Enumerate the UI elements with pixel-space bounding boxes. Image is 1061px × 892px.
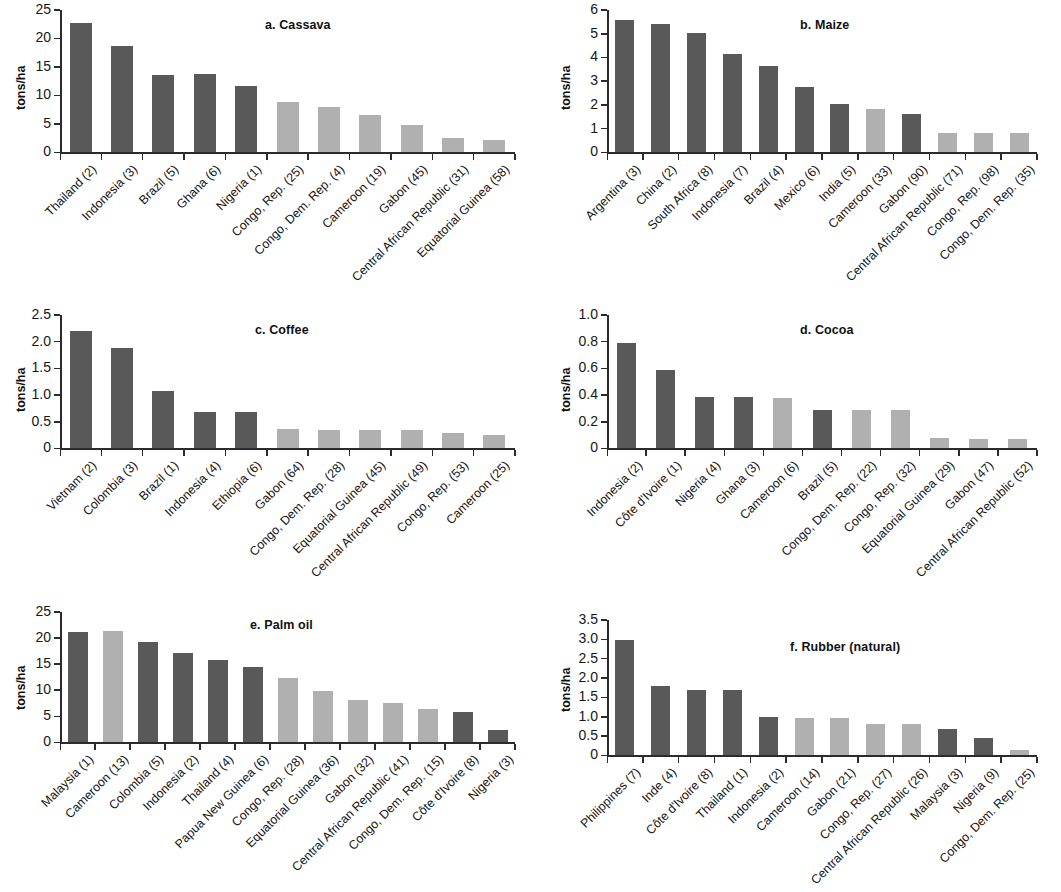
bar (383, 703, 403, 743)
y-tick-mark (54, 152, 60, 154)
bar (651, 24, 670, 152)
y-axis-title-e: tons/ha (14, 666, 28, 710)
panel-f-inner: f. Rubber (natural)tons/ha00.51.01.52.02… (545, 600, 1061, 892)
y-tick-mark (54, 368, 60, 370)
y-tick-mark (601, 421, 607, 423)
bar (488, 730, 508, 743)
x-tick-mark (479, 744, 480, 750)
plot-area-c: 00.51.01.52.02.5 (60, 315, 515, 450)
bar (235, 86, 257, 152)
y-tick-label: 0 (590, 439, 598, 455)
x-tick-mark (642, 154, 643, 160)
panel-e-inner: e. Palm oiltons/ha0510152025Malaysia (1)… (0, 600, 545, 892)
bar (243, 667, 263, 742)
bar (442, 138, 464, 153)
bar (235, 412, 257, 448)
bar (656, 370, 675, 449)
y-tick-mark (601, 735, 607, 737)
x-tick-mark (607, 450, 608, 456)
bar (401, 430, 423, 449)
y-tick-mark (601, 104, 607, 106)
figure-panel-grid: a. Cassavatons/ha0510152025Thailand (2)I… (0, 0, 1061, 892)
bar (723, 690, 742, 755)
y-tick-mark (601, 341, 607, 343)
x-tick-mark (142, 450, 143, 456)
bar (194, 412, 216, 448)
plot-area-e: 0510152025 (60, 612, 515, 744)
bar (813, 410, 832, 449)
y-tick-mark (601, 152, 607, 154)
x-tick-mark (164, 744, 165, 750)
bar (483, 140, 505, 152)
x-tick-mark (821, 757, 822, 763)
bar (687, 690, 706, 755)
x-tick-mark (893, 154, 894, 160)
x-tick-mark (225, 154, 226, 160)
x-tick-mark (409, 744, 410, 750)
bar (723, 54, 742, 152)
bar (70, 23, 92, 152)
x-tick-mark (714, 154, 715, 160)
bar (1008, 439, 1027, 448)
x-tick-mark (763, 450, 764, 456)
x-tick-mark (199, 744, 200, 750)
panel-c-inner: c. Coffeetons/ha00.51.01.52.02.5Vietnam … (0, 300, 545, 600)
y-tick-label: 3.0 (579, 630, 598, 646)
y-tick-label: 10 (35, 86, 51, 102)
y-tick-label: 0.5 (32, 413, 51, 429)
y-tick-label: 0.2 (579, 413, 598, 429)
x-tick-mark (893, 757, 894, 763)
x-tick-mark (785, 757, 786, 763)
y-tick-label: 0 (43, 733, 51, 749)
y-tick-mark (54, 314, 60, 316)
y-tick-label: 0.5 (579, 727, 598, 743)
bar (194, 74, 216, 152)
bar (173, 653, 193, 743)
x-tick-mark (1000, 154, 1001, 160)
bar (773, 398, 792, 449)
y-tick-mark (54, 611, 60, 613)
x-tick-mark (432, 154, 433, 160)
y-tick-label: 1 (590, 120, 598, 136)
x-tick-mark (304, 744, 305, 750)
y-tick-label: 3.5 (579, 611, 598, 627)
x-tick-mark (473, 450, 474, 456)
y-axis-line-f (607, 620, 609, 757)
bar (70, 331, 92, 448)
chart-panel-d: d. Cocoatons/ha00.20.40.60.81.0Indonesia… (545, 300, 1061, 600)
y-axis-title-b: tons/ha (559, 66, 573, 110)
bar (111, 46, 133, 153)
y-tick-mark (54, 38, 60, 40)
x-tick-mark (802, 450, 803, 456)
y-tick-label: 0 (43, 143, 51, 159)
x-tick-mark (678, 757, 679, 763)
bar (938, 729, 957, 755)
bar (891, 410, 910, 449)
bar (734, 397, 753, 448)
x-tick-mark (750, 154, 751, 160)
y-tick-mark (601, 639, 607, 641)
x-tick-mark (349, 154, 350, 160)
chart-panel-f: f. Rubber (natural)tons/ha00.51.01.52.02… (545, 600, 1061, 892)
y-tick-label: 25 (35, 1, 51, 17)
bar (695, 397, 714, 448)
y-tick-mark (601, 755, 607, 757)
bar (277, 429, 299, 449)
bar (1010, 750, 1029, 756)
y-tick-label: 5 (43, 707, 51, 723)
y-tick-label: 6 (590, 1, 598, 17)
x-tick-mark (349, 450, 350, 456)
x-tick-mark (307, 450, 308, 456)
y-tick-label: 1.0 (32, 386, 51, 402)
bar (278, 678, 298, 743)
y-tick-mark (54, 341, 60, 343)
bar (138, 642, 158, 743)
y-tick-mark (601, 677, 607, 679)
bar (152, 75, 174, 152)
y-tick-mark (54, 448, 60, 450)
bar (152, 391, 174, 449)
x-tick-mark (101, 450, 102, 456)
bar (111, 348, 133, 448)
y-axis-line-a (60, 10, 62, 154)
plot-area-a: 0510152025 (60, 10, 515, 154)
